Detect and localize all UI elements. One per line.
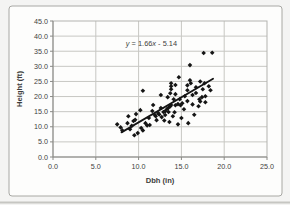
y-tick-label: 5.0 [38, 137, 48, 146]
y-tick-label: 15.0 [34, 107, 48, 116]
x-axis-title: Dbh (in) [146, 176, 175, 185]
y-tick-label: 10.0 [34, 122, 48, 131]
y-axis-title: Height (ft) [15, 71, 24, 107]
y-tick-label: 35.0 [34, 47, 48, 56]
page-background: 0.05.010.015.020.025.00.05.010.015.020.0… [0, 0, 290, 205]
equation-annotation: y = 1.66x - 5.14 [125, 39, 177, 48]
y-tick-label: 20.0 [34, 92, 48, 101]
y-tick-label: 25.0 [34, 77, 48, 86]
x-tick-label: 5.0 [91, 162, 101, 171]
scatter-chart: 0.05.010.015.020.025.00.05.010.015.020.0… [0, 0, 290, 205]
y-tick-label: 45.0 [34, 17, 48, 26]
y-tick-label: 40.0 [34, 32, 48, 41]
x-tick-label: 10.0 [132, 162, 146, 171]
x-tick-label: 20.0 [217, 162, 231, 171]
x-tick-label: 15.0 [174, 162, 188, 171]
x-tick-label: 25.0 [260, 162, 274, 171]
y-tick-label: 0.0 [38, 153, 48, 162]
scan-edge-line [0, 202, 290, 204]
y-tick-label: 30.0 [34, 62, 48, 71]
x-tick-label: 0.0 [48, 162, 58, 171]
